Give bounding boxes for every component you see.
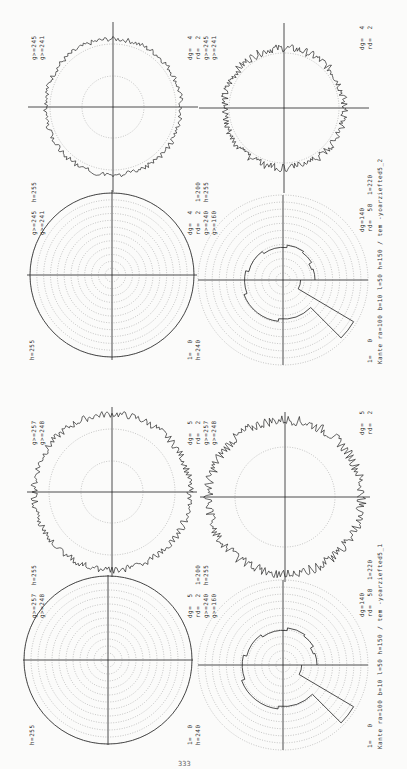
fig1-bl-br-2: h=240 [194, 339, 201, 360]
fig2-bl-side-2: rd= 2 1=200 [194, 565, 201, 618]
fig1-bl-side-1: dg= 4 [186, 210, 193, 235]
fig1-tl-label-2: g>=241 [38, 35, 45, 60]
fig2-bl-side-1: dg= 5 [186, 593, 193, 618]
fig1-bl-top-1: g>=245 h=255 [30, 182, 37, 235]
fig2-bl-bottom: h=255 [28, 724, 35, 745]
fig1-br-dg: dg=140 [358, 207, 365, 232]
fig1-tr-rd: rd= 2 [194, 35, 201, 60]
fig1-bl-side-2: rd= 2 1=200 [194, 182, 201, 235]
fig1-bl-bottom: h=255 [28, 339, 35, 360]
scanned-page: g>=245 g>=241 dg= 4 rd= 2 g>=245 g>=241 … [0, 0, 407, 769]
fig2-tr-g2: g>=248 [210, 420, 217, 445]
fig2-br-bottom: 1= 0 [366, 723, 373, 748]
fig2-bl-side-4: g>=160 [210, 593, 217, 618]
fig1-bl-top-2: g>=241 [38, 210, 45, 235]
fig2-bl-top-1: g>=257 h=255 [30, 565, 37, 618]
fig1-tr-dg: dg= 4 [186, 35, 193, 60]
fig2-caption: Kante ra=100 b=10 l=50 h=150 / tem -yoar… [376, 543, 383, 749]
fig1-caption: Kante ra=100 b=10 l=50 h=150 / tem -yoar… [376, 158, 383, 364]
polar-plots [0, 0, 407, 769]
fig2-tl-label-2: g>=248 [38, 420, 45, 445]
fig2-bl-br-2: h=240 [194, 724, 201, 745]
fig2-bl-side-3: g>=240 h=255 [202, 565, 209, 618]
fig1-bl-side-4: g>=160 [210, 210, 217, 235]
fig2-right-rd: rd= 2 [366, 410, 373, 435]
fig2-bl-top-2: g>=248 [38, 593, 45, 618]
fig2-tr-rd: rd= 2 [194, 420, 201, 445]
fig2-br-dg: dg=140 [358, 592, 365, 617]
fig1-tr-g1: g>=245 [202, 35, 209, 60]
fig1-tl-label-1: g>=245 [30, 35, 37, 60]
fig1-bl-side-3: g>=240 h=255 [202, 182, 209, 235]
fig1-right-dg: dg= 4 [358, 25, 365, 50]
fig2-tr-g1: g>=257 [202, 420, 209, 445]
fig2-tl-label-1: g>=257 [30, 420, 37, 445]
fig1-br-bottom: 1= 0 [366, 338, 373, 363]
fig2-tr-dg: dg= 5 [186, 420, 193, 445]
fig2-br-rd: rd= 58 1=220 [366, 559, 373, 617]
fig1-bl-br-1: 1= 0 [186, 339, 193, 360]
fig1-tr-g2: g>=241 [210, 35, 217, 60]
fig2-right-dg: dg= 5 [358, 410, 365, 435]
fig1-right-rd: rd= 2 [366, 25, 373, 50]
fig2-bl-br-1: 1= 0 [186, 724, 193, 745]
page-number: 333 [178, 760, 191, 768]
fig1-br-rd: rd= 58 1=220 [366, 174, 373, 232]
